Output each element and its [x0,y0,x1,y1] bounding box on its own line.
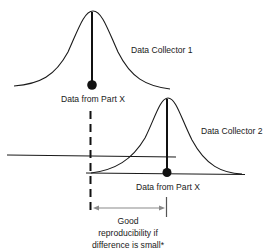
collector-1-part-x-point [87,80,97,90]
reproducibility-diagram: Data Collector 1 Data from Part X Data C… [0,0,263,249]
difference-indicator [93,197,167,217]
collector-1-point-label: Data from Part X [61,94,125,104]
collector-2-distribution: Data Collector 2 Data from Part X [86,98,263,192]
annotation-line-3: difference is small* [92,240,165,249]
annotation-line-2: reproducibility if [98,228,158,238]
arrow-left-head-icon [93,206,99,211]
collector-2-part-x-point [163,168,172,177]
collector-2-label: Data Collector 2 [201,126,263,136]
annotation-line-1: Good [117,216,138,226]
collector-1-distribution: Data Collector 1 Data from Part X [14,11,193,104]
collector-1-label: Data Collector 1 [131,45,193,55]
reproducibility-annotation: Good reproducibility if difference is sm… [92,216,165,249]
collector-2-point-label: Data from Part X [136,182,200,192]
arrow-right-head-icon [159,206,165,211]
